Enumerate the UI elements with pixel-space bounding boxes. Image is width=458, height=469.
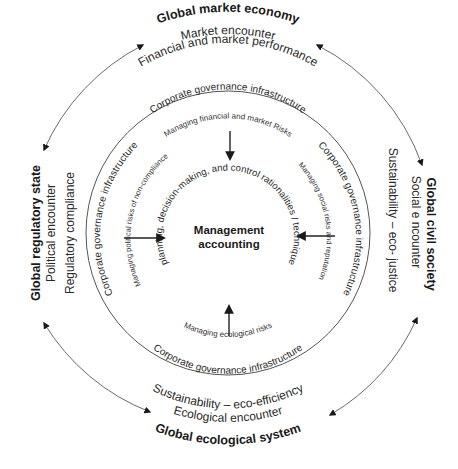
arc-top-left	[44, 45, 143, 150]
label-inner-bottom-infrastructure: Corporate governance infrastructure	[152, 341, 305, 375]
label-social-encounter: Social e ncounter	[409, 176, 423, 269]
label-accounting: accounting	[198, 238, 259, 250]
label-managing-financial-risks: Managing financial and market Risks	[162, 111, 293, 138]
label-political-encounter: Political encounter	[44, 184, 58, 282]
label-global-regulatory-state: Global regulatory state	[29, 165, 43, 301]
arc-bottom-right	[330, 318, 417, 415]
label-eco-efficiency: Sustainability – eco-efficiency	[151, 381, 306, 412]
label-inner-top-infrastructure: Corporate governance infrastructure	[148, 80, 309, 115]
arc-top-right	[317, 45, 422, 165]
label-global-market-economy: Global market economy	[155, 1, 301, 27]
label-financial-market-performance: Financial and market performance	[136, 32, 321, 70]
label-rationalities: planning, decision-making, and control r…	[153, 161, 303, 267]
label-managing-ecological-risks: Managing ecological risks	[183, 321, 274, 339]
arc-bottom-left	[44, 323, 150, 412]
management-accounting-diagram: Global market economy Market encounter F…	[0, 0, 458, 469]
label-regulatory-compliance: Regulatory compliance	[63, 172, 77, 294]
label-global-civil-society: Global civil society	[424, 177, 438, 290]
label-eco-justice: Sustainability – eco- justice	[386, 148, 400, 293]
label-management: Management	[194, 224, 264, 236]
label-managing-social-risks: Managing social risks and reputation	[297, 160, 334, 281]
